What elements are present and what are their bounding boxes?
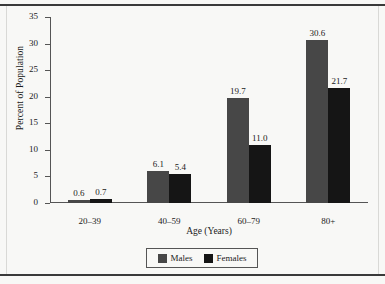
bar-group: 30.621.780+: [306, 17, 350, 203]
y-axis-tick: [45, 203, 50, 204]
bar-female[interactable]: [328, 88, 350, 203]
x-axis-title: Age (Years): [50, 226, 368, 236]
bar-female[interactable]: [169, 174, 191, 203]
legend-item[interactable]: Females: [204, 253, 247, 263]
legend-item-label: Females: [217, 253, 247, 263]
bar-male[interactable]: [227, 98, 249, 203]
y-axis-tick-label: 0: [12, 198, 38, 207]
bar-value-label: 19.7: [218, 86, 258, 96]
legend-item-label: Males: [171, 253, 193, 263]
figure-page: Percent of Population 05101520253035 0.6…: [0, 0, 385, 284]
bar-group: 0.60.720–39: [68, 17, 112, 203]
y-axis-tick-label: 15: [12, 118, 38, 127]
bar-female[interactable]: [249, 145, 271, 203]
bar-value-label: 11.0: [240, 133, 280, 143]
bar-group: 6.15.440–59: [147, 17, 191, 203]
bar-value-label: 21.7: [319, 76, 359, 86]
bar-female[interactable]: [90, 199, 112, 203]
y-axis-tick-label: 20: [12, 92, 38, 101]
x-axis-tick-label: 20–39: [50, 216, 130, 226]
y-axis-line: [50, 17, 51, 203]
bar-group: 19.711.060–79: [227, 17, 271, 203]
legend-item[interactable]: Males: [158, 253, 193, 263]
bar-value-label: 30.6: [297, 28, 337, 38]
y-axis-tick-label: 35: [12, 12, 38, 21]
chart-legend: MalesFemales: [146, 248, 258, 268]
y-axis-tick-label: 25: [12, 65, 38, 74]
bar-male[interactable]: [68, 200, 90, 203]
bar-male[interactable]: [147, 171, 169, 203]
bar-male[interactable]: [306, 40, 328, 203]
x-axis-tick-label: 60–79: [209, 216, 289, 226]
legend-swatch-icon: [204, 254, 213, 263]
legend-swatch-icon: [158, 254, 167, 263]
bar-chart: Percent of Population 05101520253035 0.6…: [0, 8, 385, 244]
y-axis-tick-label: 5: [12, 171, 38, 180]
y-axis-tick-label: 30: [12, 39, 38, 48]
page-rule-top: [0, 4, 385, 6]
page-rule-bottom: [0, 274, 385, 276]
bar-value-label: 0.7: [81, 187, 121, 197]
x-axis-tick-label: 80+: [288, 216, 368, 226]
x-axis-tick-label: 40–59: [129, 216, 209, 226]
y-axis-tick-label: 10: [12, 145, 38, 154]
bar-value-label: 5.4: [160, 162, 200, 172]
